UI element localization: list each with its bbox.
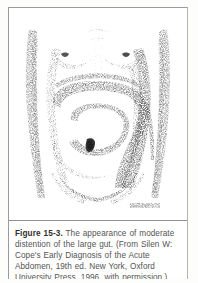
torso-illustration-svg: ~~~~~~~ <box>9 8 187 220</box>
figure-caption: Figure 15-3. The appearance of moderate … <box>9 221 187 279</box>
figure-label: Figure 15-3. <box>15 229 63 238</box>
figure-illustration: ~~~~~~~ <box>9 8 187 220</box>
umbilicus-shadow <box>80 134 104 161</box>
figure-box: ~~~~~~~ Figure 15-3. The appearance of m… <box>8 7 188 279</box>
sternum-midline <box>93 36 103 70</box>
scanned-figure-page: ~~~~~~~ Figure 15-3. The appearance of m… <box>0 0 198 283</box>
